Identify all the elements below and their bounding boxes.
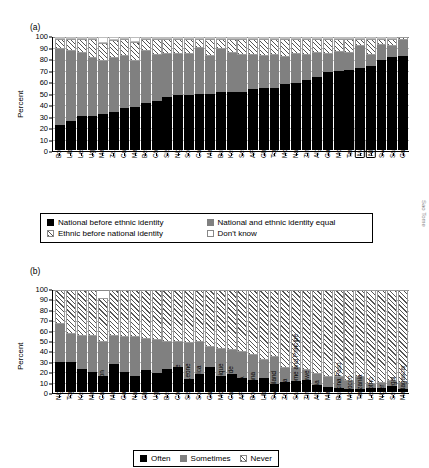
x-axis-category-label: Nigeria	[56, 380, 63, 400]
y-tick-mark	[49, 290, 52, 291]
y-tick-label: 60	[40, 79, 48, 87]
legend-item-b: Never	[240, 453, 272, 464]
bar-segment	[355, 290, 365, 377]
chart-panel-b: (b) Percent 1009080706050403020100 Niger…	[0, 262, 429, 468]
bar-segment	[195, 48, 205, 93]
bar-column	[55, 290, 65, 392]
y-tick-label: 90	[40, 297, 48, 305]
bar-segment	[205, 347, 215, 366]
legend-label: National before ethnic identity	[58, 217, 163, 228]
bar-segment	[195, 39, 205, 48]
x-axis-category-label: Morocco	[282, 133, 289, 158]
bar-segment	[152, 290, 162, 340]
legend-label: Often	[151, 453, 171, 464]
bar-segment	[205, 94, 215, 151]
y-tick-label: 0	[44, 390, 48, 398]
bar-segment	[130, 337, 140, 376]
x-axis-category-label: Benin	[142, 142, 149, 158]
bar-segment	[195, 290, 205, 342]
bar-column	[312, 37, 322, 150]
bar-segment	[109, 58, 119, 111]
x-axis-category-label: AFRICA	[239, 377, 246, 400]
bar-column	[259, 290, 269, 392]
bar-segment	[216, 290, 226, 349]
bar-segment	[88, 39, 98, 58]
bar-segment	[77, 336, 87, 369]
bar-segment	[98, 43, 108, 61]
y-tick-label: 70	[40, 68, 48, 76]
bar-segment	[334, 39, 344, 51]
bar-segment	[398, 40, 408, 56]
x-axis-category-label: Cape Verde	[228, 366, 235, 400]
bar-segment	[302, 290, 312, 370]
bar-segment	[302, 55, 312, 80]
legend-swatch-hatch	[47, 230, 54, 237]
figure: (a) Percent 1009080706050403020100 Botsw…	[0, 0, 429, 468]
bar-segment	[366, 290, 376, 384]
bar-column	[366, 37, 376, 150]
x-axis-category-label: Mozambique	[336, 121, 343, 158]
bar-segment	[162, 290, 172, 342]
bar-segment	[120, 290, 130, 337]
y-tick-mark	[49, 383, 52, 384]
panel-b-label: (b)	[30, 266, 40, 276]
bar-segment	[55, 39, 65, 49]
y-tick-mark	[49, 48, 52, 49]
bar-column	[291, 37, 301, 150]
x-axis-category-label: Mali	[325, 388, 332, 400]
bar-segment	[248, 290, 258, 355]
bar-column	[141, 37, 151, 150]
x-axis-category-label: Botswana	[250, 372, 257, 400]
x-axis-category-label: Togo	[67, 386, 74, 400]
bar-segment	[109, 336, 119, 365]
x-axis-category-label: Benin	[164, 384, 171, 400]
bar-column	[77, 290, 87, 392]
x-axis-category-label: Malawi	[110, 380, 117, 400]
x-axis-category-label: Tanzania	[357, 374, 364, 400]
bar-segment	[366, 39, 376, 55]
x-axis-category-label: Algeria	[314, 380, 321, 400]
x-axis-category-label: Malawi	[131, 138, 138, 158]
x-axis-category-label: Lesotho	[368, 377, 375, 400]
bar-column	[248, 37, 258, 150]
legend-label: National and ethnic identity equal	[218, 217, 336, 228]
bar-column	[109, 37, 119, 150]
legend-label: Sometimes	[191, 453, 231, 464]
bar-column	[237, 37, 247, 150]
bar-segment	[162, 39, 172, 54]
y-tick-mark	[49, 362, 52, 363]
bar-column	[323, 37, 333, 150]
bar-column	[398, 37, 408, 150]
legend-swatch-black	[140, 455, 147, 462]
y-tick-label: 100	[35, 33, 48, 41]
bar-segment	[302, 39, 312, 55]
bar-segment	[248, 39, 258, 55]
y-tick-mark	[49, 117, 52, 118]
bar-segment	[270, 55, 280, 88]
legend-item-b: Often	[140, 453, 171, 464]
bar-segment	[312, 39, 322, 53]
bar-segment	[152, 39, 162, 55]
y-tick-mark	[49, 300, 52, 301]
bar-segment	[237, 55, 247, 92]
x-axis-category-label: Zimbabwe	[303, 129, 310, 158]
bar-segment	[323, 290, 333, 377]
x-axis-category-label: Nigeria	[174, 138, 181, 158]
bar-segment	[88, 58, 98, 116]
x-axis-category-label: Sierra Leone	[164, 121, 171, 158]
x-axis-category-label: Liberia	[67, 139, 74, 158]
bar-column	[77, 37, 87, 150]
y-tick-mark	[49, 140, 52, 141]
x-axis-category-label: Namibia	[293, 135, 300, 158]
x-axis-category-label: Ghana	[260, 139, 267, 158]
legend-item-b: Sometimes	[180, 453, 231, 464]
x-axis-category-label: Gabon	[121, 381, 128, 400]
x-axis-category-label: South Africa	[196, 366, 203, 400]
legend-item-a: Don't know	[207, 228, 367, 239]
y-tick-mark	[49, 321, 52, 322]
y-tick-label: 90	[40, 45, 48, 53]
legend-label: Don't know	[218, 228, 257, 239]
bar-segment	[259, 39, 269, 56]
bar-segment	[366, 55, 376, 66]
bar-segment	[141, 339, 151, 370]
